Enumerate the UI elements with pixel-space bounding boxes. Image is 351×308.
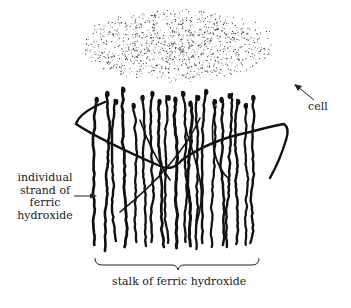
cell-body <box>82 9 272 83</box>
diagram-artwork <box>0 0 351 308</box>
diagram-canvas: individual strand of ferric hydroxide st… <box>0 0 351 308</box>
strand-label-line-1: individual <box>14 172 76 185</box>
strand-label-line-3: ferric <box>14 197 76 210</box>
stalk-label: stalk of ferric hydroxide <box>112 276 246 289</box>
strand-label: individual strand of ferric hydroxide <box>14 172 76 222</box>
strand-label-line-4: hydroxide <box>14 210 76 223</box>
cell-arrow <box>294 84 314 100</box>
cell-label: cell <box>308 101 328 114</box>
stalk-strands <box>93 87 256 251</box>
stalk-brace <box>95 258 259 270</box>
